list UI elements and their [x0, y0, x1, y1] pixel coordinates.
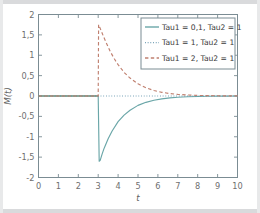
- y-tick-label: 0,5: [21, 71, 34, 81]
- x-tick-label: 4: [115, 181, 120, 191]
- y-tick-label: 2: [29, 10, 34, 20]
- y-tick-label: -2: [26, 173, 34, 183]
- x-tick-label: 10: [232, 181, 242, 191]
- y-tick-label: -1: [26, 132, 34, 142]
- x-tick-label: 3: [96, 181, 101, 191]
- x-axis-title: t: [136, 193, 140, 203]
- x-tick-label: 6: [155, 181, 160, 191]
- figure-container: 012345678910 21,510,50-0,5-1-1,5-2 t M(t…: [0, 0, 260, 213]
- x-tick-label: 0: [36, 181, 41, 191]
- y-tick-label: -1,5: [19, 152, 35, 162]
- x-tick-label: 9: [215, 181, 220, 191]
- chart-legend[interactable]: Tau1 = 0,1, Tau2 = 1 Tau1 = 1, Tau2 = 1 …: [141, 18, 242, 69]
- x-tick-label: 1: [56, 181, 61, 191]
- x-tick-label: 8: [195, 181, 200, 191]
- y-axis-tick-labels: 21,510,50-0,5-1-1,5-2: [19, 10, 35, 183]
- legend-label-tau1-2: Tau1 = 2, Tau2 = 1: [161, 54, 234, 63]
- x-tick-label: 2: [76, 181, 81, 191]
- y-axis-title: M(t): [3, 87, 13, 105]
- x-tick-label: 7: [175, 181, 180, 191]
- y-tick-label: -0,5: [19, 111, 35, 121]
- y-tick-label: 0: [29, 91, 34, 101]
- line-chart: 012345678910 21,510,50-0,5-1-1,5-2 t M(t…: [0, 0, 260, 213]
- series-line-tau1-0-1: [39, 96, 238, 161]
- legend-label-tau1-1: Tau1 = 1, Tau2 = 1: [161, 38, 234, 47]
- legend-label-tau1-0-1: Tau1 = 0,1, Tau2 = 1: [161, 23, 242, 32]
- y-tick-label: 1: [29, 50, 34, 60]
- x-tick-label: 5: [135, 181, 140, 191]
- y-tick-label: 1,5: [21, 30, 34, 40]
- x-axis-tick-labels: 012345678910: [36, 181, 243, 191]
